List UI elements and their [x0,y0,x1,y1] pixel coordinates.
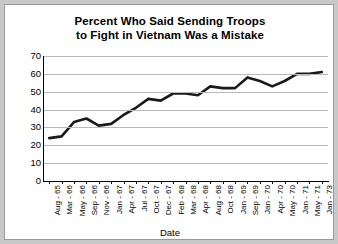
x-axis-tick-label: Apr - 67 [127,185,136,213]
chart-title-line-1: Percent Who Said Sending Troops [5,15,334,29]
x-axis-tickmark [99,181,100,184]
x-axis-tick-label: Aug - 65 [53,185,62,215]
x-axis-tick-label: Sep - 66 [90,185,99,215]
x-axis-tickmark [322,181,323,184]
x-axis-tickmark [161,181,162,184]
x-axis-tickmark [111,181,112,184]
x-axis-tickmark [260,181,261,184]
x-axis-tickmark [285,181,286,184]
x-axis-tickmark [210,181,211,184]
x-axis-tick-label: Aug - 68 [214,185,223,215]
y-axis-labels: 010203040506070 [5,56,41,182]
x-axis-tick-label: Mar - 66 [65,185,74,215]
x-axis-tick-label: May - 70 [288,185,297,216]
x-axis-tickmark [49,181,50,184]
gridline [43,145,328,146]
gridline [43,163,328,164]
x-axis-tickmark [235,181,236,184]
gridline [43,127,328,128]
x-axis-tick-label: Oct - 68 [226,185,235,213]
chart-container: Percent Who Said Sending Troops to Fight… [4,4,334,240]
y-axis-line [43,56,44,182]
y-axis-tick-label: 60 [7,68,41,79]
x-axis-tickmark [148,181,149,184]
x-axis-tickmark [272,181,273,184]
x-axis-tick-label: Mar - 68 [189,185,198,215]
x-axis-tickmark [173,181,174,184]
x-axis-tick-label: Apr - 68 [201,185,210,213]
x-axis-tickmark [74,181,75,184]
x-axis-tick-label: Jan - 70 [263,185,272,214]
x-axis-tick-label: Nov - 66 [102,185,111,215]
x-axis-labels: Aug - 65Mar - 66May - 66Sep - 66Nov - 66… [43,185,329,227]
x-axis-tickmark [86,181,87,184]
y-axis-tick-label: 40 [7,104,41,115]
plot-area [43,56,328,181]
x-axis-tick-label: Feb - 68 [177,185,186,215]
x-axis-tickmark [309,181,310,184]
gridline [43,74,328,75]
x-axis-tickmark [62,181,63,184]
x-axis-tickmark [297,181,298,184]
x-axis-tick-label: Jul - 67 [140,185,149,211]
x-axis-tickmark [124,181,125,184]
x-axis-tick-label: May - 66 [78,185,87,216]
x-axis-tick-label: Jan - 67 [115,185,124,214]
x-axis-tick-label: Oct - 67 [152,185,161,213]
x-axis-tickmark [223,181,224,184]
x-axis-title: Date [5,227,334,238]
x-axis-tick-label: Sep - 69 [251,185,260,215]
y-axis-tick-label: 0 [7,175,41,186]
y-axis-tick-label: 20 [7,139,41,150]
x-axis-tick-label: May - 71 [313,185,322,216]
gridline [43,92,328,93]
x-axis-tick-label: Jan - 69 [239,185,248,214]
y-axis-tick-label: 50 [7,86,41,97]
gridline [43,56,328,57]
x-axis-tickmark [186,181,187,184]
y-axis-tick-label: 10 [7,157,41,168]
chart-title: Percent Who Said Sending Troops to Fight… [5,15,334,42]
y-axis-tick-label: 30 [7,121,41,132]
x-axis-tick-label: Dec - 67 [164,185,173,215]
y-axis-tick-label: 70 [7,50,41,61]
x-axis-tick-label: Apr - 70 [276,185,285,213]
x-axis-tickmark [198,181,199,184]
gridline [43,110,328,111]
x-axis-tickmark [136,181,137,184]
x-axis-tickmark [247,181,248,184]
chart-title-line-2: to Fight in Vietnam Was a Mistake [5,29,334,43]
x-axis-tick-label: Jan - 73 [325,185,334,214]
x-axis-tick-label: Jan - 71 [301,185,310,214]
